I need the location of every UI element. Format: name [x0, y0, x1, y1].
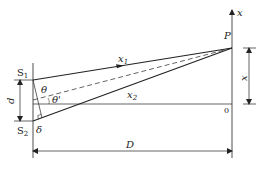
delta-label: δ — [36, 124, 42, 135]
slit2-label: S2 — [17, 125, 28, 138]
theta-prime-label: θ' — [52, 94, 61, 105]
slit1-label: S1 — [17, 67, 28, 80]
ray-x1 — [33, 48, 232, 80]
d-label: d — [5, 98, 16, 104]
ray-x2-label: x2 — [127, 89, 138, 102]
theta-prime-arc — [48, 98, 49, 104]
origin-label: 0 — [224, 106, 229, 115]
ray-x2 — [33, 48, 232, 121]
ray-x1-label: x1 — [118, 53, 128, 66]
D-label: D — [125, 139, 134, 150]
interference-diagram: x P S1 S2 x1 x2 θ θ' d δ D x 0 — [0, 0, 265, 169]
x-dim-label: x — [238, 75, 249, 81]
point-p-label: P — [223, 30, 231, 41]
axis-x-label: x — [237, 7, 243, 18]
theta-label: θ — [41, 84, 47, 95]
